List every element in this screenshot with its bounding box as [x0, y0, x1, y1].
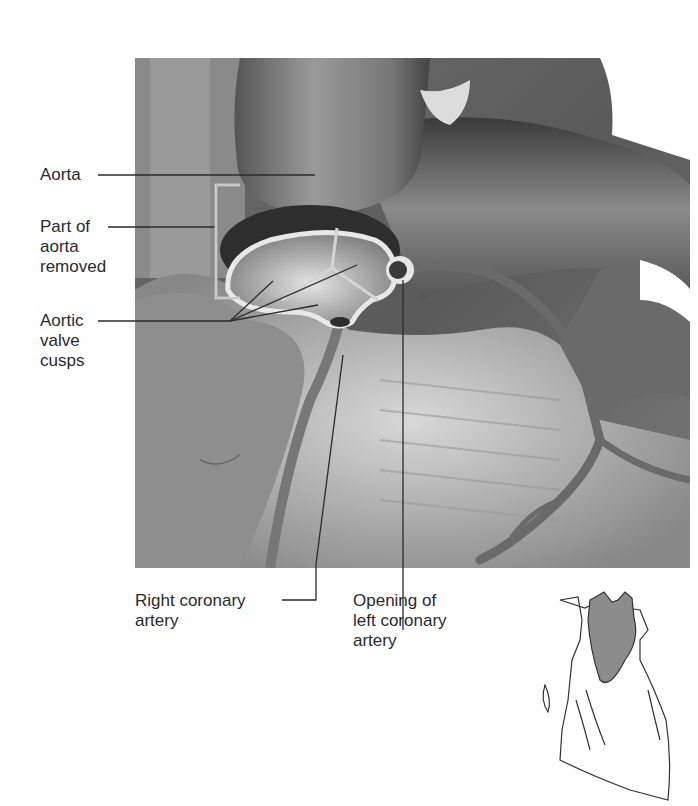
inset-heart-diagram [543, 592, 670, 800]
label-right-coronary-artery: Right coronary artery [135, 591, 246, 631]
label-aorta: Aorta [40, 165, 81, 185]
label-opening-left-coronary-artery: Opening of left coronary artery [353, 591, 447, 651]
label-part-of-aorta-removed: Part of aorta removed [40, 217, 106, 277]
heart-illustration [0, 0, 698, 806]
label-aortic-valve-cusps: Aortic valve cusps [40, 311, 84, 371]
